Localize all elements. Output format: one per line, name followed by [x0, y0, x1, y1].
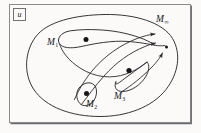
figure-background — [0, 0, 201, 133]
label-m2: M2 — [86, 100, 97, 111]
label-m-infinity-subscript: ∞ — [164, 18, 169, 25]
label-m-infinity: M∞ — [156, 15, 169, 25]
label-m3-subscript: 3 — [122, 96, 125, 102]
figure-container: u M1 M2 M3 M∞ — [0, 0, 201, 133]
label-m3-base: M — [114, 91, 122, 101]
label-m1-subscript: 1 — [55, 42, 58, 48]
universe-label: u — [14, 9, 25, 20]
label-m3: M3 — [114, 92, 125, 103]
label-m1-base: M — [47, 37, 55, 47]
set-diagram-svg — [0, 0, 201, 133]
universe-label-box: u — [13, 8, 26, 21]
m3-point — [126, 68, 131, 73]
label-m1: M1 — [47, 38, 58, 49]
label-m2-base: M — [86, 99, 94, 109]
m1-point — [84, 37, 89, 42]
label-m-infinity-base: M — [156, 14, 164, 24]
m2-point — [84, 91, 89, 96]
limit-point — [165, 46, 168, 49]
label-m2-subscript: 2 — [94, 104, 97, 110]
